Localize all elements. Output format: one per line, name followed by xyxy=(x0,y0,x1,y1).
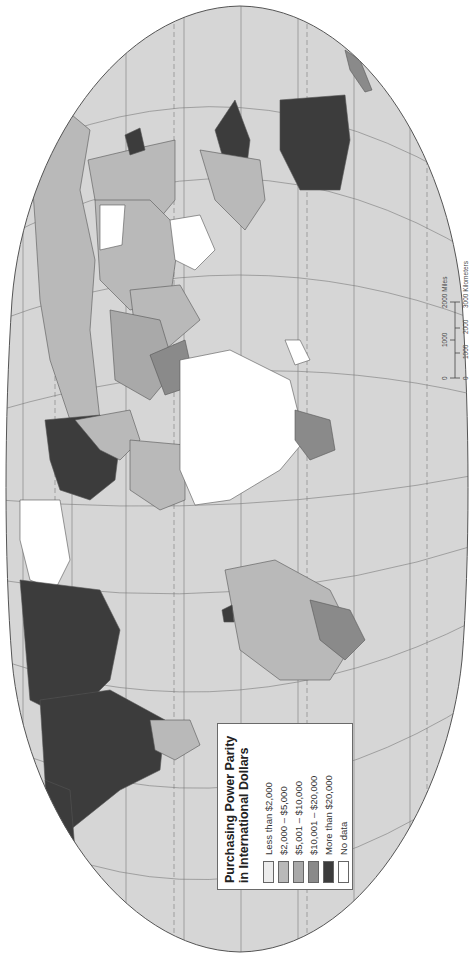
legend-title-line2: in International Dollars xyxy=(237,736,251,883)
legend-item-2000-5000: $2,000 – $5,000 xyxy=(277,786,290,883)
legend-item-more-than-20000: More than $20,000 xyxy=(322,775,335,883)
scale-km-2000: 2000 xyxy=(462,320,469,334)
legend-item-10001-20000: $10,001 – $20,000 xyxy=(307,776,320,883)
swatch xyxy=(323,861,334,883)
swatch xyxy=(338,861,349,883)
scale-miles-0: 0 xyxy=(441,376,448,380)
legend-label: $5,001 – $10,000 xyxy=(293,781,304,855)
legend-item-no-data: No data xyxy=(337,822,350,883)
scale-miles-2000: 2000 Miles xyxy=(441,277,448,308)
scale-bar: 0 1000 2000 Miles 0 1000 2000 3000 Kilom… xyxy=(436,270,476,400)
scale-km-0: 0 xyxy=(462,376,469,380)
mongolia xyxy=(100,205,125,250)
legend-title-line1: Purchasing Power Parity xyxy=(223,736,237,883)
legend-label: $10,001 – $20,000 xyxy=(308,776,319,855)
swatch xyxy=(263,861,274,883)
scale-miles-1000: 1000 xyxy=(441,333,448,347)
legend-label: No data xyxy=(338,822,349,855)
legend-label: Less than $2,000 xyxy=(263,782,274,855)
swatch xyxy=(308,861,319,883)
legend-item-5001-10000: $5,001 – $10,000 xyxy=(292,781,305,883)
legend-label: $2,000 – $5,000 xyxy=(278,786,289,855)
scale-km-1000: 1000 xyxy=(462,345,469,359)
legend-title: Purchasing Power Parity in International… xyxy=(223,736,251,883)
scale-km-3000: 3000 Kilometers xyxy=(462,261,469,308)
swatch xyxy=(278,861,289,883)
legend: Purchasing Power Parity in International… xyxy=(217,723,353,890)
legend-item-less-than-2000: Less than $2,000 xyxy=(262,782,275,883)
swatch xyxy=(293,861,304,883)
legend-label: More than $20,000 xyxy=(323,775,334,855)
